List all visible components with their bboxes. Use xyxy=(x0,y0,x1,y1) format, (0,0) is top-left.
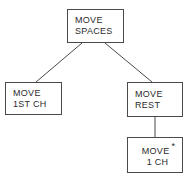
node-move-1-ch[interactable]: MOVE* 1 CH xyxy=(127,137,183,173)
node-move-1-ch-line1: MOVE* xyxy=(142,143,176,157)
node-move-1st-ch-line1: MOVE xyxy=(13,88,41,99)
edge-move-spaces-to-move-rest xyxy=(105,43,152,82)
node-move-rest[interactable]: MOVE REST xyxy=(127,82,183,117)
node-move-spaces[interactable]: MOVE SPACES xyxy=(67,9,124,43)
diagram-canvas: MOVE SPACES MOVE 1ST CH MOVE REST MOVE* … xyxy=(0,0,193,178)
node-move-1st-ch-line2: 1ST CH xyxy=(13,99,47,110)
node-move-spaces-line2: SPACES xyxy=(75,26,113,37)
node-move-1-ch-line1-text: MOVE xyxy=(142,146,170,156)
asterisk-marker-icon: * xyxy=(171,141,175,151)
node-move-1-ch-line2: 1 CH xyxy=(147,157,171,168)
node-move-rest-line1: MOVE xyxy=(135,89,163,100)
node-move-rest-line2: REST xyxy=(135,100,160,111)
node-move-spaces-line1: MOVE xyxy=(75,15,103,26)
edge-move-spaces-to-move-1st-ch xyxy=(36,43,82,82)
node-move-1st-ch[interactable]: MOVE 1ST CH xyxy=(5,82,62,115)
